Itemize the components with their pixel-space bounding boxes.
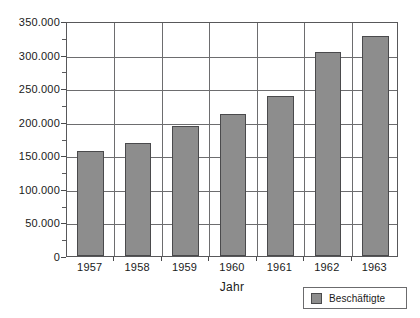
bar-1961 [267, 96, 294, 256]
bar-chart: 050.000100.000150.000200.000250.000300.0… [0, 0, 420, 318]
bar-1959 [172, 126, 199, 256]
gridline [67, 57, 397, 58]
y-tick-mark [61, 257, 66, 258]
column-separator [257, 23, 258, 256]
bar-1960 [220, 114, 247, 256]
y-tick-label: 150.000 [0, 151, 60, 162]
bar-1958 [125, 143, 152, 256]
plot-area [66, 22, 398, 257]
x-tick-mark [161, 257, 162, 261]
x-tick-mark [303, 257, 304, 261]
gridline [67, 90, 397, 91]
legend: Beschäftigte [303, 287, 407, 309]
x-tick-label-1963: 1963 [346, 261, 402, 273]
y-tick-label: 300.000 [0, 51, 60, 62]
y-tick-label: 350.000 [0, 17, 60, 28]
bar-1957 [77, 151, 104, 256]
column-separator [209, 23, 210, 256]
y-tick-label: 250.000 [0, 84, 60, 95]
y-tick-label: 0 [0, 252, 60, 263]
bar-1963 [362, 36, 389, 256]
x-tick-mark [256, 257, 257, 261]
column-separator [352, 23, 353, 256]
column-separator [114, 23, 115, 256]
y-tick-label: 50.000 [0, 218, 60, 229]
x-tick-mark [351, 257, 352, 261]
bar-1962 [315, 52, 342, 256]
y-tick-label: 200.000 [0, 118, 60, 129]
y-tick-label: 100.000 [0, 185, 60, 196]
column-separator [162, 23, 163, 256]
legend-swatch-beschaeftigte [311, 293, 322, 304]
x-tick-mark [208, 257, 209, 261]
legend-label-beschaeftigte: Beschäftigte [329, 293, 385, 304]
column-separator [304, 23, 305, 256]
x-tick-mark [113, 257, 114, 261]
